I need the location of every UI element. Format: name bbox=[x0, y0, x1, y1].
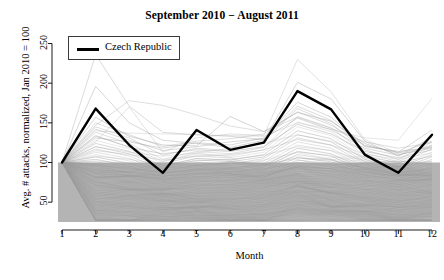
legend: Czech Republic bbox=[68, 36, 180, 60]
legend-label-czech-republic: Czech Republic bbox=[105, 41, 172, 52]
x-tick-label: 4 bbox=[151, 228, 175, 239]
series-line-highlight bbox=[62, 91, 432, 173]
y-tick-label: 200 bbox=[38, 67, 49, 97]
series-line bbox=[62, 116, 432, 162]
x-tick-label: 10 bbox=[353, 228, 377, 239]
x-tick-label: 5 bbox=[185, 228, 209, 239]
x-tick-label: 9 bbox=[319, 228, 343, 239]
x-tick-label: 1 bbox=[50, 228, 74, 239]
legend-line-swatch bbox=[77, 48, 99, 51]
x-tick-label: 7 bbox=[252, 228, 276, 239]
y-tick-label: 150 bbox=[38, 106, 49, 136]
x-tick-label: 6 bbox=[218, 228, 242, 239]
highlight-series-group bbox=[62, 91, 432, 173]
series-line bbox=[62, 109, 432, 163]
x-tick-label: 3 bbox=[117, 228, 141, 239]
y-tick-label: 100 bbox=[38, 146, 49, 176]
x-tick-label: 11 bbox=[386, 228, 410, 239]
x-tick-label: 12 bbox=[420, 228, 444, 239]
chart-figure: September 2010 − August 2011 Avg. # atta… bbox=[0, 0, 444, 280]
y-tick-label: 50 bbox=[38, 186, 49, 216]
series-line bbox=[62, 124, 432, 162]
x-tick-label: 2 bbox=[84, 228, 108, 239]
x-tick-label: 8 bbox=[285, 228, 309, 239]
y-tick-label: 250 bbox=[38, 27, 49, 57]
